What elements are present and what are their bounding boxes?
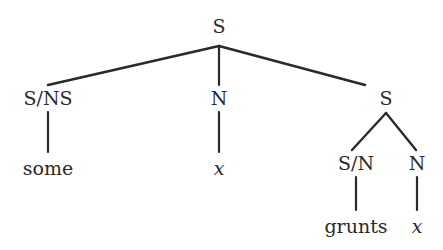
leaf-some: some	[23, 159, 73, 178]
leaf-grunts: grunts	[324, 217, 387, 236]
syntax-tree-figure: S S/NS some N x S S/N grunts N x	[0, 0, 443, 250]
node-root-s: S	[212, 17, 225, 36]
tree-edge-layer	[0, 0, 443, 250]
node-mid-category-n: N	[211, 89, 228, 108]
node-right-left-category-s-n: S/N	[338, 154, 374, 173]
edge-root-to-right-cat	[219, 46, 365, 85]
node-right-right-category-n: N	[409, 154, 426, 173]
leaf-variable-x-mid: x	[214, 159, 225, 178]
node-right-category-s: S	[379, 89, 392, 108]
edge-right-cat-to-s-over-n	[352, 113, 386, 150]
leaf-variable-x-right: x	[412, 217, 423, 236]
edge-root-to-left-cat	[48, 46, 219, 85]
edge-right-cat-to-n	[386, 113, 416, 150]
node-left-category-s-ns: S/NS	[23, 89, 72, 108]
